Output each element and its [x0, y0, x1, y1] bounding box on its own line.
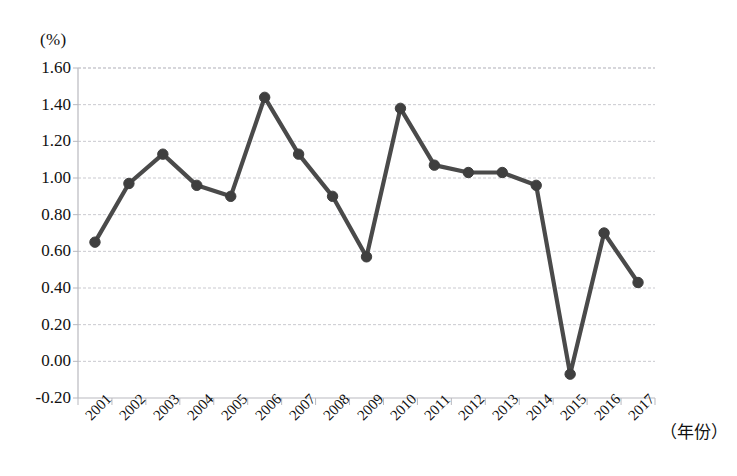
x-tick-label-2009: 2009	[354, 391, 387, 424]
x-tick-label-2003: 2003	[150, 391, 183, 424]
x-tick-label-2010: 2010	[387, 391, 420, 424]
x-axis-title: （年份）	[660, 418, 728, 443]
x-tick-label-2014: 2014	[523, 391, 556, 424]
x-tick-label-2006: 2006	[252, 391, 285, 424]
x-tick-label-2016: 2016	[591, 391, 624, 424]
x-tick-label-2011: 2011	[421, 391, 454, 424]
x-tick-label-2002: 2002	[116, 391, 149, 424]
x-tick-label-2005: 2005	[218, 391, 251, 424]
x-tick-label-2015: 2015	[557, 391, 590, 424]
x-tick-label-2001: 2001	[82, 391, 115, 424]
x-tick-label-2017: 2017	[625, 391, 658, 424]
x-tick-label-2013: 2013	[489, 391, 522, 424]
x-tick-label-2012: 2012	[455, 391, 488, 424]
x-tick-label-2008: 2008	[320, 391, 353, 424]
x-tick-label-2007: 2007	[286, 391, 319, 424]
x-tick-label-2004: 2004	[184, 391, 217, 424]
x-axis-tick-labels: 2001200220032004200520062007200820092010…	[0, 0, 737, 476]
chart-figure: (%) 1.601.401.201.000.800.600.400.200.00…	[0, 0, 737, 476]
